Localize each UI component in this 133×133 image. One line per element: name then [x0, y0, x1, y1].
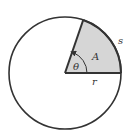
area-label: A [91, 51, 99, 62]
radius-label: r [92, 76, 98, 87]
arc-length-label: s [118, 35, 123, 46]
circle-sector-diagram: θ A s r [0, 0, 133, 133]
angle-label: θ [73, 61, 79, 72]
